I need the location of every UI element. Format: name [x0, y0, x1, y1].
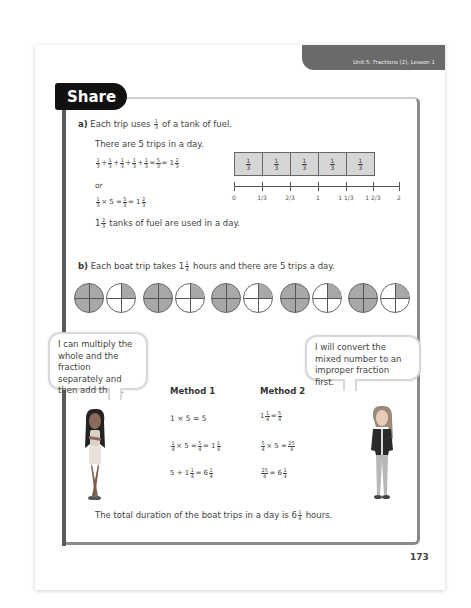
clock-quarter-hour-icon: [175, 283, 205, 313]
clock-full-hour-icon: [348, 283, 378, 313]
page-number: 173: [410, 552, 429, 562]
unit-label: Unit 5: Fractions (2), Lesson 1: [353, 59, 435, 65]
clock-full-hour-icon: [211, 283, 241, 313]
speech-bubble-tail: [343, 379, 357, 391]
section-title-tab: Share: [55, 83, 127, 110]
clock-full-hour-icon: [74, 283, 104, 313]
denominator: 4: [298, 516, 301, 521]
method-1-step-1: 1 × 5 = 5: [170, 414, 206, 423]
tick-label: 1: [316, 194, 320, 201]
number-line-tick: [399, 182, 400, 191]
method-1-title: Method 1: [170, 386, 215, 396]
frame-left-border: [62, 110, 66, 546]
bar-cell: 13: [291, 153, 319, 175]
denominator: 3: [155, 125, 158, 130]
whole-number: 1: [95, 218, 100, 228]
conclusion-text: tanks of fuel are used in a day.: [109, 218, 240, 228]
clock-quarter-hour-icon: [106, 283, 136, 313]
part-a-question-post: of a tank of fuel.: [162, 119, 232, 129]
number-line-tick: [262, 182, 263, 191]
tick-label: 2: [397, 194, 401, 201]
method-1-step-3: 5 + 114= 614: [170, 468, 214, 479]
bar-cell: 13: [347, 153, 374, 175]
number-line: [234, 186, 399, 187]
denominator: 4: [186, 267, 189, 272]
part-a-question-pre: Each trip uses: [90, 119, 150, 129]
conclusion-pre: The total duration of the boat trips in …: [95, 510, 297, 520]
bar-cell: 13: [319, 153, 347, 175]
denominator: 3: [102, 224, 105, 229]
number-line-tick: [373, 182, 374, 191]
girl-character-right-illustration: [366, 405, 398, 503]
method-2-step-1: 114=54: [260, 411, 283, 422]
method-1-step-2: 14× 5 =54= 114: [170, 441, 222, 452]
number-line-tick: [290, 182, 291, 191]
repeated-addition-equation: 13+13+13+13+13=53= 123: [95, 158, 180, 169]
clock-quarter-hour-icon: [312, 283, 342, 313]
multiplication-equation: 13× 5 =53= 123: [95, 197, 147, 208]
final-conclusion: The total duration of the boat trips in …: [95, 510, 332, 521]
clock-quarter-hour-icon: [243, 283, 273, 313]
bar-cell: 13: [235, 153, 263, 175]
fraction: 23: [101, 218, 105, 229]
tick-label: 1/3: [257, 194, 267, 201]
part-b-question-post: hours and there are 5 trips a day.: [193, 261, 335, 271]
speech-text: I will convert the mixed number to an im…: [315, 342, 401, 387]
number-line-tick: [318, 182, 319, 191]
speech-text: I can multiply the whole and the fractio…: [58, 339, 132, 395]
tick-label: 2/3: [285, 194, 295, 201]
part-a-label: a): [78, 119, 88, 129]
fraction: 14: [298, 510, 302, 521]
trips-line: There are 5 trips in a day.: [95, 139, 204, 149]
bar-cell: 13: [263, 153, 291, 175]
method-2-step-2: 54× 5 =254: [260, 441, 296, 452]
speech-bubble-left: I can multiply the whole and the fractio…: [48, 332, 148, 390]
bar-model: 13 13 13 13 13: [234, 152, 375, 176]
unit-header-tab: Unit 5: Fractions (2), Lesson 1: [302, 45, 445, 70]
method-2-step-3: 254= 614: [260, 468, 288, 479]
speech-bubble-right: I will convert the mixed number to an im…: [305, 335, 421, 381]
tick-label: 0: [232, 194, 236, 201]
method-2-title: Method 2: [260, 386, 305, 396]
part-b-question: b) Each boat trip takes 114 hours and th…: [78, 261, 335, 272]
section-title: Share: [67, 88, 116, 106]
fraction: 13: [154, 119, 158, 130]
speech-bubble-tail: [108, 388, 122, 400]
or-label: or: [95, 181, 103, 190]
part-b-question-pre: Each boat trip takes: [91, 261, 176, 271]
tick-label: 1 2/3: [365, 194, 380, 201]
girl-character-left-illustration: [80, 408, 110, 503]
clock-quarter-hour-icon: [380, 283, 410, 313]
part-a-question: a) Each trip uses 13 of a tank of fuel.: [78, 119, 232, 130]
conclusion-post: hours.: [306, 510, 333, 520]
clock-full-hour-icon: [280, 283, 310, 313]
tick-label: 1 1/3: [338, 194, 353, 201]
part-b-label: b): [78, 261, 88, 271]
number-line-tick: [234, 182, 235, 191]
whole-number: 1: [179, 261, 184, 271]
fraction: 14: [185, 261, 189, 272]
part-a-conclusion: 123 tanks of fuel are used in a day.: [95, 218, 240, 229]
clock-full-hour-icon: [143, 283, 173, 313]
number-line-tick: [346, 182, 347, 191]
